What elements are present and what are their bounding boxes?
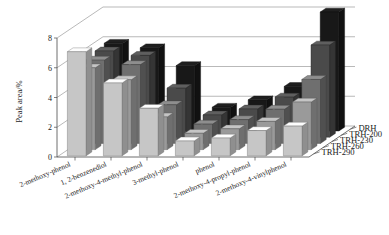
bar-side: [122, 79, 128, 156]
y-tick-label-2: 2: [48, 123, 52, 132]
bar-side: [266, 127, 272, 156]
y-tick-label-4: 4: [48, 94, 52, 103]
chart-figure: 02468Peak area/%2-methoxy-phenol1, 2-ben…: [0, 0, 389, 235]
bar-side: [131, 76, 137, 150]
bar-side: [311, 98, 317, 149]
bar-side: [330, 41, 336, 137]
bar-TRH-290-1: [103, 79, 127, 156]
bar-front: [103, 83, 122, 156]
y-axis-title: Peak area/%: [14, 80, 24, 122]
bar-front: [211, 138, 230, 156]
bar-front: [67, 52, 86, 156]
bar-side: [321, 76, 327, 144]
bar-front: [283, 126, 302, 156]
y-tick-label-0: 0: [48, 153, 52, 162]
bar-TRH-290-0: [67, 48, 91, 156]
bar-side: [302, 122, 308, 156]
bar-side: [167, 113, 173, 150]
bar-front: [175, 141, 194, 156]
bar-side: [158, 104, 164, 155]
x-axis-label-4: phenol: [194, 160, 216, 176]
bar-TRH-290-4: [211, 134, 235, 156]
bar-side: [86, 48, 92, 156]
bar-chart-3d: 02468Peak area/%2-methoxy-phenol1, 2-ben…: [0, 0, 389, 235]
bar-side: [95, 64, 101, 150]
bar-TRH-290-5: [247, 127, 271, 156]
bar-TRH-290-2: [139, 104, 163, 155]
y-tick-label-8: 8: [48, 34, 52, 43]
y-tick-label-6: 6: [48, 64, 52, 73]
bar-front: [139, 108, 158, 156]
bar-TRH-290-3: [175, 137, 199, 156]
bar-side: [239, 125, 245, 150]
bar-side: [275, 118, 281, 150]
bar-front: [247, 131, 266, 156]
bar-TRH-290-6: [283, 122, 307, 156]
bar-side: [339, 8, 345, 131]
legend-label-TRH-290: TRH-290: [322, 147, 355, 157]
